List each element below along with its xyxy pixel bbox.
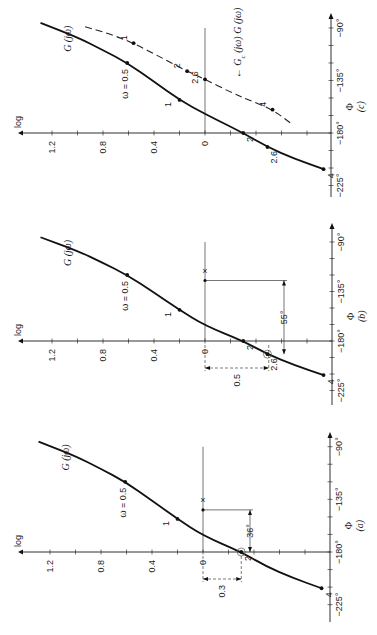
panel-label: (c) — [355, 101, 367, 113]
phase-tick-label: −90° — [334, 437, 344, 456]
log-tick-label: 1.2 — [47, 141, 57, 154]
frequency-marker — [266, 145, 270, 149]
frequency-marker — [178, 308, 182, 312]
panel-b: log1.20.80.40−90°−135°−180°−225°Φ(b)ω = … — [13, 223, 368, 405]
frequency-label: 2.6 — [190, 71, 200, 84]
frequency-label: 4 — [324, 592, 334, 597]
nichols-figure: log1.20.80.40−90°−135°−180°−225°Φ(c)ω = … — [0, 0, 377, 635]
log-tick-label: 0.4 — [149, 141, 159, 154]
phase-tick-label: −180° — [335, 121, 345, 145]
frequency-label: 2 — [172, 63, 182, 68]
log-tick-label: 1.2 — [47, 349, 57, 362]
frequency-label: 4 — [258, 102, 268, 107]
phase-tick-label: −90° — [336, 232, 346, 251]
phase-tick-label: −135° — [335, 68, 345, 92]
phase-margin-label: 36° — [245, 524, 255, 538]
frequency-marker — [125, 61, 129, 65]
frequency-label: 2 — [245, 137, 255, 142]
phase-axis-arrow-icon — [330, 223, 335, 229]
log-tick-label: 0 — [200, 141, 210, 146]
frequency-marker — [132, 41, 136, 45]
log-tick-label: 0.4 — [147, 560, 157, 573]
phase-axis-label: Φ — [345, 313, 356, 320]
frequency-marker — [178, 98, 182, 102]
frequency-label: 2 — [245, 345, 255, 350]
phase-tick-label: −135° — [334, 487, 344, 511]
g-curve — [41, 23, 324, 169]
phase-axis-label: Φ — [343, 522, 354, 529]
phase-tick-label: −135° — [336, 279, 346, 303]
log-tick-label: 0.8 — [98, 141, 108, 154]
gain-margin-label: 0.3 — [217, 585, 227, 598]
phase-tick-label: −180° — [336, 329, 346, 353]
frequency-marker — [241, 131, 245, 135]
g-curve — [41, 237, 324, 375]
log-axis-arrow-icon — [18, 550, 23, 555]
frequency-label: 1 — [162, 521, 172, 526]
frequency-label: ω = 0.5 — [120, 69, 130, 99]
phase-margin-label: 55° — [279, 310, 289, 324]
g-curve-label: G (jω) — [62, 25, 74, 52]
g-curve-label: G (jω) — [62, 239, 74, 266]
log-tick-label: 0.4 — [149, 349, 159, 362]
critical-point-cross-icon: × — [202, 266, 207, 276]
phase-tick-label: −90° — [335, 18, 345, 37]
gain-margin-label: 0.5 — [232, 374, 242, 387]
frequency-label: 4 — [326, 379, 336, 384]
frequency-marker — [241, 339, 245, 343]
frequency-label: 1 — [119, 35, 129, 40]
frequency-label: 2 — [243, 556, 253, 561]
phase-axis-arrow-icon — [328, 432, 333, 438]
frequency-marker — [322, 373, 326, 377]
g-curve — [39, 442, 322, 589]
compensated-curve-label: ← Gc (jω) G (jω) — [232, 7, 247, 78]
panel-label: (a) — [354, 519, 366, 531]
frequency-label: ω = 0.5 — [120, 281, 130, 311]
frequency-label: 2.6 — [269, 358, 279, 371]
frequency-label: 2.6 — [269, 151, 279, 164]
phase-tick-label: −225° — [335, 173, 345, 197]
frequency-marker — [123, 480, 127, 484]
frequency-label: 1 — [164, 312, 174, 317]
frequency-marker — [322, 167, 326, 171]
frequency-marker — [271, 108, 275, 112]
frequency-marker — [320, 586, 324, 590]
log-axis-label: log — [13, 116, 23, 128]
panel-c: log1.20.80.40−90°−135°−180°−225°Φ(c)ω = … — [13, 7, 367, 198]
frequency-label: 1 — [164, 102, 174, 107]
phase-tick-label: −180° — [334, 540, 344, 564]
nichols-plots-svg: log1.20.80.40−90°−135°−180°−225°Φ(c)ω = … — [0, 0, 377, 635]
panel-a: log1.20.80.40−90°−135°−180°−225°Φ(a)ω = … — [13, 432, 366, 622]
log-tick-label: 0.8 — [96, 560, 106, 573]
frequency-marker — [239, 550, 243, 554]
log-axis-label: log — [13, 324, 23, 336]
frequency-marker — [203, 77, 207, 81]
log-tick-label: 1.2 — [45, 560, 55, 573]
frequency-marker — [176, 517, 180, 521]
frequency-label: 4 — [326, 173, 336, 178]
phase-tick-label: −225° — [336, 378, 346, 402]
log-axis-arrow-icon — [18, 131, 23, 136]
g-curve-label: G (jω) — [60, 444, 72, 471]
phase-tick-label: −225° — [334, 592, 344, 616]
frequency-marker — [125, 273, 129, 277]
critical-point-cross-icon: × — [200, 495, 205, 505]
log-tick-label: 0.8 — [98, 349, 108, 362]
frequency-marker — [185, 69, 189, 73]
panel-label: (b) — [356, 310, 368, 322]
phase-axis-arrow-icon — [329, 13, 334, 19]
phase-axis-label: Φ — [344, 103, 355, 110]
frequency-label: ω = 0.5 — [118, 488, 128, 518]
log-axis-label: log — [13, 535, 23, 547]
log-axis-arrow-icon — [18, 339, 23, 344]
